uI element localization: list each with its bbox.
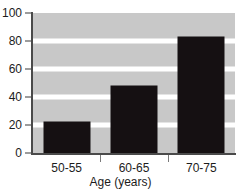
x-tick-mark [168, 155, 169, 162]
plot-area [33, 13, 235, 153]
y-axis: 100806040200 [0, 0, 31, 194]
y-tick-label: 20 [9, 119, 22, 131]
caption-clipped [3, 190, 123, 194]
x-tick-label: 60-65 [119, 162, 150, 174]
x-axis: 50-5560-6570-75 [33, 155, 235, 175]
x-tick-label: 50-55 [51, 162, 82, 174]
y-tick-label: 0 [15, 147, 22, 159]
y-tick-label: 60 [9, 63, 22, 75]
x-axis-title: Age (years) [0, 176, 241, 188]
y-tick-label: 40 [9, 91, 22, 103]
y-tick-label: 100 [2, 7, 22, 19]
bar-chart-figure: 100806040200 50-5560-6570-75 Age (years) [0, 0, 241, 194]
x-tick-mark [100, 155, 101, 162]
bar [111, 86, 157, 153]
x-tick-label: 70-75 [186, 162, 217, 174]
bar [44, 122, 90, 153]
y-tick-label: 80 [9, 35, 22, 47]
bar [178, 37, 224, 153]
